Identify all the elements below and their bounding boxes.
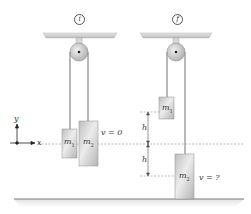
mass-label-m1-initial: m1 [64,138,75,148]
state-label-initial: i [74,14,85,25]
velocity-label-final: v = ? [199,174,220,182]
y-axis-label: y [14,115,19,123]
ceiling-initial [43,33,117,38]
mass-label-m1-final: m1 [162,104,173,114]
x-axis-label: x [37,139,42,147]
height-label-lower: h [142,156,147,164]
height-label-upper: h [142,124,147,132]
mass-label-m2-initial: m2 [83,138,94,148]
mass-label-m2-final: m2 [179,172,190,182]
state-label-final: f [172,14,183,25]
ceiling-final [140,33,212,38]
coordinate-axes [10,124,35,145]
floor [14,199,244,207]
initial-panel [43,33,117,166]
velocity-label-initial: v = 0 [101,129,122,137]
